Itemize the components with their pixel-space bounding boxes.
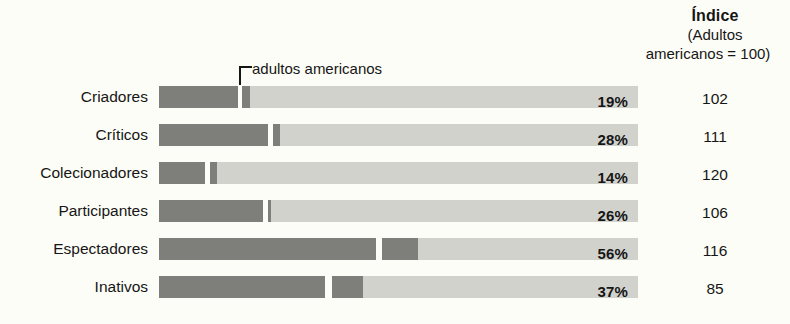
chart-row: Espectadores56%116 [0, 234, 790, 272]
row-percent-label: 14% [597, 169, 628, 186]
bar-segment-value [159, 86, 238, 108]
row-index-value: 116 [640, 242, 790, 260]
row-index-value: 120 [640, 166, 790, 184]
row-category-label: Espectadores [0, 240, 148, 258]
bar-segment-value [159, 238, 376, 260]
bar-segment-value [159, 162, 205, 184]
bar-reference-marker [382, 238, 418, 260]
row-index-value: 111 [640, 128, 790, 146]
bar-reference-marker [273, 124, 280, 146]
row-index-value: 85 [640, 280, 790, 298]
chart-row: Inativos37%85 [0, 272, 790, 310]
row-index-value: 106 [640, 204, 790, 222]
row-percent-label: 37% [597, 283, 628, 300]
bar-reference-marker [268, 200, 271, 222]
row-percent-label: 19% [597, 93, 628, 110]
row-category-label: Colecionadores [0, 164, 148, 182]
index-bar-chart: Índice (Adultos americanos = 100) adulto… [0, 0, 790, 324]
bar-track: 56% [159, 238, 638, 260]
bar-reference-marker [210, 162, 217, 184]
row-index-value: 102 [640, 90, 790, 108]
bar-segment-gap [325, 276, 332, 298]
row-category-label: Inativos [0, 278, 148, 296]
row-percent-label: 26% [597, 207, 628, 224]
row-category-label: Criadores [0, 88, 148, 106]
bar-reference-marker [242, 86, 250, 108]
chart-row: Colecionadores14%120 [0, 158, 790, 196]
index-header-title: Índice [640, 6, 790, 25]
index-column-header: Índice (Adultos americanos = 100) [640, 6, 790, 63]
bar-track: 14% [159, 162, 638, 184]
bar-track: 37% [159, 276, 638, 298]
bar-segment-value [159, 276, 325, 298]
chart-row: Participantes26%106 [0, 196, 790, 234]
bar-track: 26% [159, 200, 638, 222]
chart-row: Criadores19%102 [0, 82, 790, 120]
row-percent-label: 28% [597, 131, 628, 148]
bar-segment-value [159, 124, 268, 146]
chart-row: Críticos28%111 [0, 120, 790, 158]
bar-reference-marker [332, 276, 363, 298]
index-header-line3: americanos = 100) [626, 44, 790, 63]
index-header-line2: (Adultos [640, 25, 790, 44]
bar-track: 19% [159, 86, 638, 108]
bar-segment-value [159, 200, 263, 222]
callout-label: adultos americanos [252, 60, 382, 77]
row-percent-label: 56% [597, 245, 628, 262]
row-category-label: Participantes [0, 202, 148, 220]
row-category-label: Críticos [0, 126, 148, 144]
bar-track: 28% [159, 124, 638, 146]
